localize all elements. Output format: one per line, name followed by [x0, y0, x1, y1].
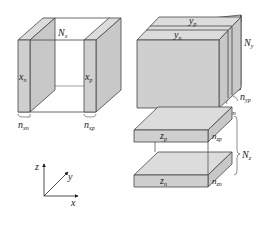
brace-nxp	[84, 114, 96, 117]
y-boundary-box	[137, 15, 241, 108]
label-nxp: nxp	[84, 119, 95, 131]
label-Ny: Ny	[243, 37, 254, 49]
x-boundary-box	[18, 18, 121, 112]
label-Nx: Nx	[57, 27, 68, 39]
z-boundary-box	[134, 107, 232, 187]
label-nyp: nyp	[240, 91, 251, 103]
y-axis-arrow	[44, 172, 68, 196]
axis-label-x: x	[70, 197, 76, 208]
front-slab-yn	[137, 40, 219, 108]
right-slab-xp	[84, 18, 121, 112]
boundary-diagram: xn xp Nx nxn nxp yp yn Ny nyp nyn	[0, 0, 268, 230]
axis-label-z: z	[34, 161, 39, 172]
axis-label-y: y	[67, 171, 73, 182]
label-Nz: Nz	[241, 149, 252, 161]
brace-Nz	[234, 116, 240, 175]
left-slab-xn	[18, 18, 55, 112]
brace-nxn	[18, 114, 30, 117]
coordinate-axes	[44, 164, 78, 196]
label-nxn: nxn	[18, 119, 29, 131]
